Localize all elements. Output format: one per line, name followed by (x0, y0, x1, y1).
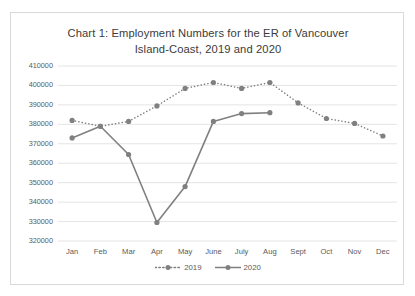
y-axis-tick-label: 370000 (11, 140, 53, 148)
legend-item-2020[interactable]: 2020 (215, 263, 261, 272)
data-point-2019 (296, 100, 301, 105)
data-point-2019 (267, 80, 272, 85)
data-point-2019 (380, 133, 385, 138)
data-point-2020 (211, 119, 216, 124)
y-axis-tick-label: 410000 (11, 62, 53, 70)
data-point-2019 (70, 118, 75, 123)
data-point-2019 (183, 86, 188, 91)
y-axis-tick-label: 330000 (11, 218, 53, 226)
data-point-2019 (352, 121, 357, 126)
legend-label-2020: 2020 (244, 263, 261, 272)
data-point-2020 (126, 152, 131, 157)
data-point-2019 (154, 103, 159, 108)
data-point-2020 (70, 135, 75, 140)
chart-legend: 2019 2020 (11, 263, 405, 272)
y-axis-tick-label: 350000 (11, 179, 53, 187)
data-point-2020 (183, 184, 188, 189)
y-axis-tick-label: 400000 (11, 81, 53, 89)
series-line-2019 (72, 83, 383, 137)
data-point-2020 (239, 111, 244, 116)
data-point-2020 (98, 124, 103, 129)
legend-label-2019: 2019 (184, 263, 201, 272)
series-line-2020 (72, 113, 270, 223)
data-point-2019 (239, 86, 244, 91)
data-point-2020 (154, 220, 159, 225)
data-point-2019 (324, 116, 329, 121)
x-axis-tick-label: Dec (363, 247, 403, 256)
y-axis-tick-label: 390000 (11, 101, 53, 109)
chart-container: Chart 1: Employment Numbers for the ER o… (10, 12, 404, 285)
y-axis-tick-label: 320000 (11, 237, 53, 245)
y-axis-tick-label: 340000 (11, 198, 53, 206)
chart-svg (11, 13, 405, 286)
legend-marker-2019-icon (155, 263, 181, 272)
y-axis-tick-label: 360000 (11, 159, 53, 167)
plot-area: 3200003300003400003500003600003700003800… (11, 13, 405, 286)
data-point-2020 (267, 110, 272, 115)
legend-item-2019[interactable]: 2019 (155, 263, 201, 272)
data-point-2019 (126, 119, 131, 124)
y-axis-tick-label: 380000 (11, 120, 53, 128)
legend-marker-2020-icon (215, 263, 241, 272)
data-point-2019 (211, 80, 216, 85)
